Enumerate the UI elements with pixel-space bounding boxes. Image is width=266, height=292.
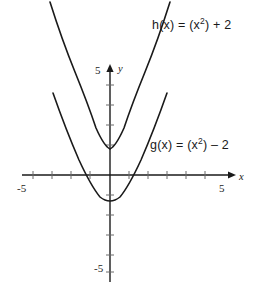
equation-label-h: h(x) = (x2) + 2 [152, 18, 231, 32]
x-axis [22, 171, 236, 179]
y-axis-arrow [106, 64, 113, 72]
x-axis-arrow [228, 171, 236, 178]
equation-label-g: g(x) = (x2) – 2 [150, 138, 229, 152]
x-axis-max-tick-label: 5 [219, 182, 225, 194]
x-axis-label: x [239, 171, 244, 182]
y-axis-label: y [118, 63, 123, 74]
graph-figure: h(x) = (x2) + 2 g(x) = (x2) – 2 -5 5 5 -… [0, 0, 266, 292]
y-axis-min-tick-label: -5 [94, 262, 103, 274]
equation-g-suffix: ) – 2 [203, 138, 229, 152]
y-axis-max-tick-label: 5 [95, 64, 101, 76]
y-axis [106, 64, 114, 282]
equation-h-prefix: h(x) = (x [152, 18, 200, 32]
equation-g-prefix: g(x) = (x [150, 138, 198, 152]
x-axis-min-tick-label: -5 [17, 182, 26, 194]
equation-h-suffix: ) + 2 [205, 18, 231, 32]
